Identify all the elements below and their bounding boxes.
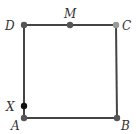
- square-edges: [24, 25, 117, 118]
- point-x: [21, 103, 27, 109]
- label-a: A: [10, 119, 20, 133]
- points: [21, 22, 120, 121]
- point-a: [21, 115, 27, 121]
- edge-bc: [116, 25, 117, 118]
- label-d: D: [4, 19, 15, 33]
- label-b: B: [120, 119, 130, 133]
- label-m: M: [63, 7, 77, 21]
- point-b: [114, 115, 120, 121]
- label-x: X: [5, 100, 15, 114]
- point-c: [113, 22, 119, 28]
- point-d: [21, 22, 27, 28]
- point-m: [67, 22, 73, 28]
- square-diagram: D M C X A B: [0, 0, 136, 134]
- label-c: C: [122, 19, 131, 33]
